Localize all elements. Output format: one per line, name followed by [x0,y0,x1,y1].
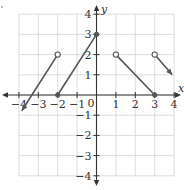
x-tick-label: 3 [151,98,158,111]
y-tick-label: 1 [85,69,92,82]
x-axis-left-arrow-icon [2,92,8,97]
y-tick-label: 3 [85,28,92,41]
x-tick-label: −3 [30,98,46,111]
closed-endpoint-dot [94,32,98,36]
y-axis-up-arrow-icon [94,5,99,11]
x-tick-label: 1 [112,98,119,111]
y-tick-label: −2 [75,129,91,142]
origin-label: 0 [88,97,95,110]
open-endpoint-circle [55,52,60,57]
y-tick-label: −4 [75,170,91,183]
x-tick-label: −2 [50,98,66,111]
x-tick-label: −4 [11,98,27,111]
y-axis-down-arrow-icon [94,180,99,186]
closed-endpoint-dot [153,93,157,97]
open-endpoint-circle [113,52,118,57]
y-tick-label: −3 [75,150,91,163]
x-tick-label: 4 [171,98,178,111]
y-tick-label: 4 [85,8,92,21]
stray-mark [1,6,3,8]
y-tick-label: −1 [75,109,91,122]
x-tick-label: 2 [132,98,139,111]
x-axis-label: x [178,82,184,95]
open-endpoint-circle [152,52,157,57]
closed-endpoint-dot [56,93,60,97]
y-axis-label: y [100,3,108,16]
piecewise-function-graph: x y 0 −4−3−2−11234−4−3−2−11234 [0,0,184,190]
